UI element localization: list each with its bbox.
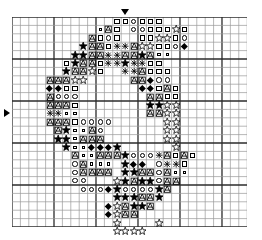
stitch-hatched-a	[104, 151, 112, 159]
stitch-open-square	[172, 93, 180, 101]
stitch-open-circle	[146, 151, 154, 159]
stitch-open-circle	[62, 93, 70, 101]
stitch-open-square	[155, 25, 163, 33]
stitch-hatched-a	[155, 93, 163, 101]
stitch-cross-hatch	[104, 51, 112, 59]
stitch-hatched-a	[138, 168, 146, 176]
stitch-open-circle	[138, 151, 146, 159]
stitch-small-square	[79, 151, 87, 159]
stitch-open-star	[113, 219, 121, 227]
stitch-open-star	[79, 76, 87, 84]
stitch-cross-hatch	[104, 59, 112, 67]
stitch-open-circle	[71, 168, 79, 176]
stitch-open-square	[113, 25, 121, 33]
stitch-open-square	[62, 59, 70, 67]
stitch-open-square	[71, 84, 79, 92]
stitch-open-star	[130, 227, 138, 235]
stitch-open-square	[96, 34, 104, 42]
stitch-filled-diamond	[104, 185, 112, 193]
stitch-open-circle	[172, 42, 180, 50]
stitch-hatched-a	[96, 151, 104, 159]
stitch-open-circle	[104, 34, 112, 42]
stitch-hatched-a	[113, 151, 121, 159]
stitch-hatched-a	[146, 51, 154, 59]
stitch-filled-star	[71, 51, 79, 59]
stitch-open-square	[172, 151, 180, 159]
stitch-cross-hatch	[172, 160, 180, 168]
stitch-hatched-a	[163, 185, 171, 193]
stitch-open-star	[163, 118, 171, 126]
stitch-hatched-a	[130, 210, 138, 218]
stitch-cross-hatch	[163, 160, 171, 168]
stitch-filled-star	[138, 202, 146, 210]
stitch-open-square	[104, 42, 112, 50]
stitch-hatched-a	[138, 193, 146, 201]
stitch-open-square	[138, 34, 146, 42]
stitch-filled-diamond	[104, 202, 112, 210]
stitch-open-square	[163, 67, 171, 75]
stitch-open-square	[71, 118, 79, 126]
stitch-hatched-a	[88, 126, 96, 134]
stitch-hatched-a	[88, 59, 96, 67]
stitch-filled-star	[79, 51, 87, 59]
stitch-small-square	[180, 168, 188, 176]
stitch-filled-star	[79, 42, 87, 50]
stitch-small-square	[71, 126, 79, 134]
stitch-open-square	[146, 25, 154, 33]
stitch-open-square	[113, 17, 121, 25]
stitch-hatched-a	[121, 51, 129, 59]
stitch-filled-star	[71, 59, 79, 67]
stitch-small-square	[88, 160, 96, 168]
stitch-open-star	[172, 118, 180, 126]
stitch-open-circle	[79, 185, 87, 193]
stitch-open-circle	[96, 185, 104, 193]
stitch-cells	[12, 17, 247, 227]
stitch-hatched-a	[54, 101, 62, 109]
stitch-hatched-a	[138, 76, 146, 84]
stitch-hatched-a	[96, 51, 104, 59]
stitch-hatched-a	[79, 59, 87, 67]
stitch-open-star	[155, 34, 163, 42]
stitch-open-star	[172, 109, 180, 117]
stitch-filled-star	[62, 126, 70, 134]
stitch-open-square	[71, 101, 79, 109]
stitch-open-square	[155, 67, 163, 75]
pattern-grid[interactable]	[12, 17, 247, 227]
stitch-cross-hatch	[138, 59, 146, 67]
stitch-filled-star	[54, 135, 62, 143]
stitch-open-circle	[180, 34, 188, 42]
stitch-open-star	[163, 126, 171, 134]
stitch-open-square	[113, 34, 121, 42]
stitch-hatched-a	[54, 126, 62, 134]
stitch-hatched-a	[62, 101, 70, 109]
stitch-open-circle	[54, 93, 62, 101]
stitch-filled-star	[62, 143, 70, 151]
stitch-open-circle	[121, 185, 129, 193]
stitch-filled-diamond	[104, 210, 112, 218]
stitch-hatched-a	[104, 25, 112, 33]
stitch-open-square	[146, 59, 154, 67]
stitch-hatched-a	[96, 135, 104, 143]
stitch-hatched-a	[46, 101, 54, 109]
stitch-small-square	[88, 151, 96, 159]
stitch-filled-star	[155, 185, 163, 193]
stitch-filled-star	[113, 193, 121, 201]
stitch-filled-diamond	[96, 143, 104, 151]
stitch-small-square	[155, 51, 163, 59]
stitch-cross-hatch	[46, 109, 54, 117]
stitch-hatched-a	[96, 168, 104, 176]
stitch-filled-star	[130, 193, 138, 201]
stitch-hatched-a	[71, 67, 79, 75]
stitch-cross-hatch	[155, 151, 163, 159]
stitch-open-star	[172, 143, 180, 151]
stitch-open-star	[88, 67, 96, 75]
stitch-hatched-a	[79, 135, 87, 143]
stitch-small-square	[79, 143, 87, 151]
stitch-open-square	[180, 25, 188, 33]
stitch-hatched-a	[54, 76, 62, 84]
stitch-filled-star	[155, 101, 163, 109]
stitch-open-star	[113, 227, 121, 235]
stitch-open-circle	[138, 185, 146, 193]
stitch-hatched-a	[163, 151, 171, 159]
stitch-filled-star	[121, 168, 129, 176]
